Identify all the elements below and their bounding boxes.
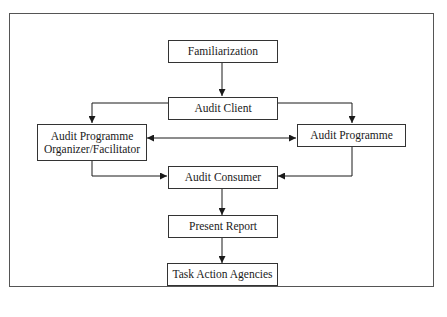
arrow-client-to-programme bbox=[277, 103, 352, 123]
arrow-organizer-to-consumer bbox=[92, 160, 167, 176]
node-present-report: Present Report bbox=[168, 215, 278, 238]
node-label: Audit Client bbox=[194, 102, 251, 115]
node-label: Present Report bbox=[189, 220, 257, 233]
node-label: Task Action Agencies bbox=[172, 268, 272, 281]
node-familiarization: Familiarization bbox=[168, 40, 278, 63]
node-label: Audit Programme bbox=[310, 129, 393, 142]
node-task-action-agencies: Task Action Agencies bbox=[167, 263, 278, 286]
node-audit-client: Audit Client bbox=[168, 97, 278, 120]
node-label-line1: Audit Programme bbox=[51, 130, 134, 143]
node-label: Audit Consumer bbox=[185, 171, 261, 184]
node-label-line2: Organizer/Facilitator bbox=[44, 143, 140, 156]
node-audit-programme: Audit Programme bbox=[297, 124, 406, 147]
node-audit-programme-organizer: Audit Programme Organizer/Facilitator bbox=[37, 124, 147, 161]
node-audit-consumer: Audit Consumer bbox=[168, 166, 278, 189]
arrow-client-to-organizer bbox=[92, 103, 168, 123]
node-label: Familiarization bbox=[188, 45, 258, 58]
arrow-programme-to-consumer bbox=[278, 146, 352, 176]
